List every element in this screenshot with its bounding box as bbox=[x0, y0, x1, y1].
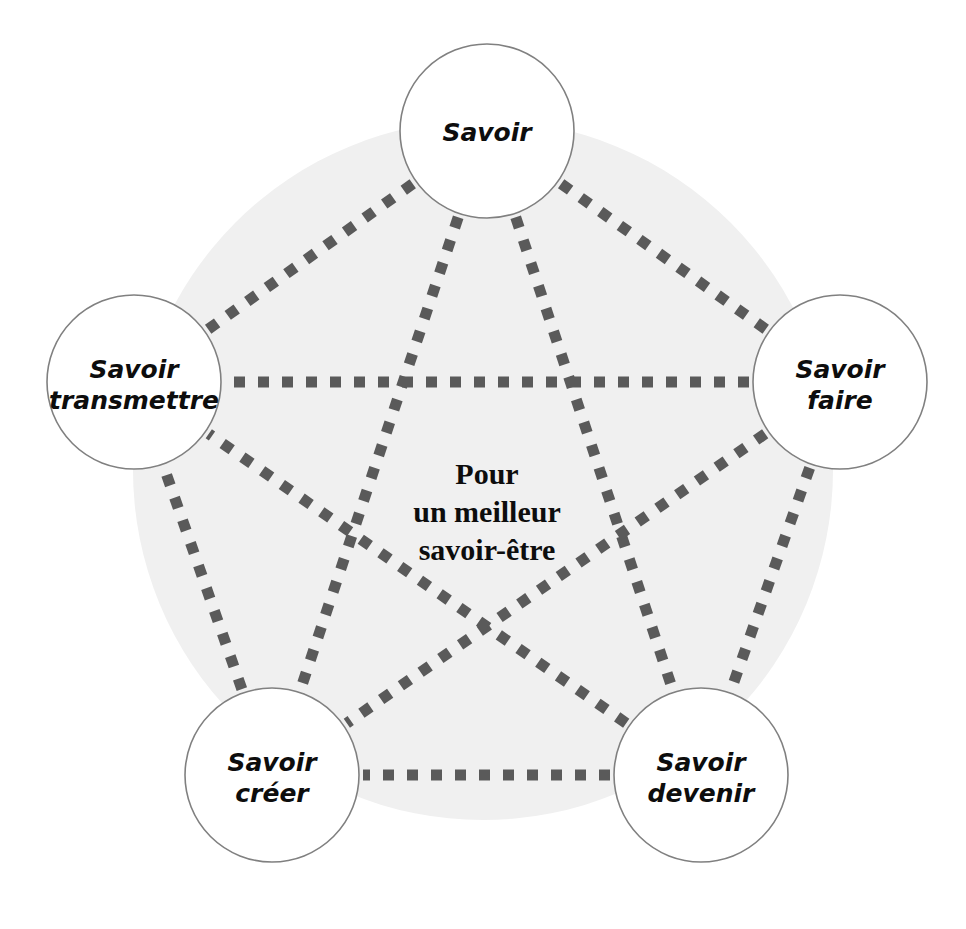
node-label-savoir-creer-line1: Savoir bbox=[227, 748, 318, 777]
pentagon-network-diagram: SavoirSavoirfaireSavoirdevenirSavoircrée… bbox=[0, 0, 966, 929]
node-label-savoir-devenir-line1: Savoir bbox=[656, 748, 747, 777]
diagram-canvas: SavoirSavoirfaireSavoirdevenirSavoircrée… bbox=[0, 0, 966, 929]
node-label-savoir-faire-line1: Savoir bbox=[795, 355, 886, 384]
node-label-savoir-creer-line2: créer bbox=[235, 779, 310, 808]
node-label-savoir-line1: Savoir bbox=[442, 118, 533, 147]
node-savoir[interactable]: Savoir bbox=[400, 44, 574, 218]
node-label-savoir-faire-line2: faire bbox=[807, 386, 873, 415]
node-label-savoir-transmettre-line1: Savoir bbox=[89, 355, 180, 384]
center-line-1: Pour bbox=[455, 457, 518, 490]
node-label-savoir-transmettre-line2: transmettre bbox=[49, 386, 219, 415]
node-savoir-transmettre[interactable]: Savoirtransmettre bbox=[47, 295, 221, 469]
center-line-2: un meilleur bbox=[413, 495, 561, 528]
node-savoir-devenir[interactable]: Savoirdevenir bbox=[614, 688, 788, 862]
node-savoir-creer[interactable]: Savoircréer bbox=[185, 688, 359, 862]
node-label-savoir-devenir-line2: devenir bbox=[648, 779, 756, 808]
node-savoir-faire[interactable]: Savoirfaire bbox=[753, 295, 927, 469]
center-line-3: savoir-être bbox=[419, 533, 556, 566]
